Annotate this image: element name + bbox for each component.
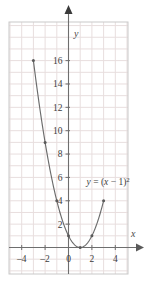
x-tick-label: –4 [16, 254, 27, 264]
y-tick-label: 14 [53, 79, 63, 89]
data-point-marker [102, 199, 105, 202]
y-tick-label: 6 [58, 173, 63, 183]
y-tick-label: 8 [58, 149, 63, 159]
x-tick-label: 2 [90, 254, 95, 264]
coordinate-plane-chart: –4–2024 246810121416 x y y = (x − 1)2 [0, 0, 155, 284]
data-point-marker [44, 141, 47, 144]
x-axis-label: x [130, 228, 136, 239]
x-tick-label: –2 [39, 254, 50, 264]
y-tick-label: 12 [53, 103, 63, 113]
data-point-marker [79, 246, 82, 249]
y-tick-label: 10 [53, 126, 63, 136]
data-point-marker [32, 59, 35, 62]
y-tick-label: 16 [53, 56, 63, 66]
equation-label: y = (x − 1)2 [86, 176, 131, 189]
x-tick-label: 0 [66, 254, 71, 264]
data-point-marker [67, 234, 70, 237]
y-axis-label: y [73, 28, 79, 39]
y-tick-label: 4 [58, 196, 63, 206]
equation-annotation: y = (x − 1)2 [86, 176, 131, 189]
data-point-marker [90, 234, 93, 237]
graph-figure: –4–2024 246810121416 x y y = (x − 1)2 [0, 0, 155, 284]
x-tick-label: 4 [113, 254, 118, 264]
data-point-marker [55, 199, 58, 202]
